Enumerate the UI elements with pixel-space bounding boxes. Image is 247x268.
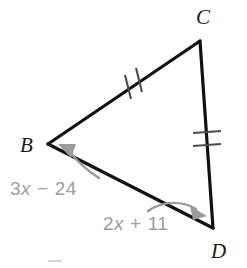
angle-d-expression: 2x+11 bbox=[103, 213, 168, 234]
tick-marks-edge-bc bbox=[125, 68, 142, 99]
arrow-head-d bbox=[190, 206, 207, 220]
vertex-label-b: B bbox=[20, 133, 33, 157]
edge-cd bbox=[200, 41, 213, 228]
tick-mark bbox=[193, 131, 221, 133]
angle-b-expression: 3x−24 bbox=[10, 178, 77, 199]
vertex-label-c: C bbox=[196, 5, 211, 29]
angle-b-coefficient: 3 bbox=[10, 178, 21, 199]
angle-d-constant: 11 bbox=[148, 213, 169, 234]
geometry-figure: B C D 3x−24 2x+11 bbox=[0, 0, 247, 268]
angle-b-variable: x bbox=[20, 178, 32, 199]
tick-mark bbox=[193, 144, 221, 146]
arrow-to-b bbox=[58, 144, 99, 178]
bottom-edge-artifact bbox=[48, 260, 62, 262]
edge-bc bbox=[48, 41, 200, 144]
angle-b-operator: − bbox=[37, 178, 49, 199]
angle-d-operator: + bbox=[130, 213, 142, 234]
triangle-diagram-canvas: B C D 3x−24 2x+11 bbox=[0, 0, 247, 268]
triangle-edges bbox=[48, 41, 213, 228]
angle-b-constant: 24 bbox=[55, 178, 77, 199]
angle-arc-b bbox=[69, 151, 99, 178]
angle-d-variable: x bbox=[113, 213, 125, 234]
vertex-label-d: D bbox=[210, 239, 226, 263]
angle-d-coefficient: 2 bbox=[103, 213, 114, 234]
